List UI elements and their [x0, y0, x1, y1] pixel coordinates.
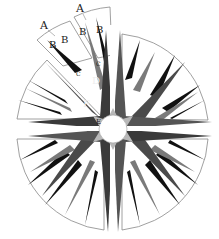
label-b4: B [96, 24, 103, 35]
label-b2: B [61, 34, 68, 45]
compass-rose-diagram: A A B B B B C C D F E [0, 0, 219, 239]
label-b1: B [49, 39, 56, 50]
label-d: D [92, 75, 100, 86]
label-a1: A [39, 19, 49, 32]
label-c2: C [96, 60, 101, 67]
center-circle [99, 115, 127, 143]
label-a2: A [75, 2, 85, 15]
label-f: F [83, 98, 90, 109]
label-b3: B [79, 26, 86, 37]
label-e: E [96, 118, 101, 126]
label-c1: C [76, 70, 81, 77]
compass-rose-svg: A A B B B B C C D F E [0, 0, 219, 239]
